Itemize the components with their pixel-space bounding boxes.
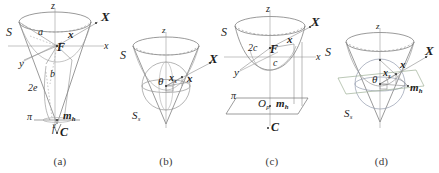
label-a-vector-x: x xyxy=(68,29,74,40)
label-c-param-c: c xyxy=(273,58,277,68)
panel-c: z x y S X x F 2c c π Op mh C (c) xyxy=(216,0,328,173)
label-a-y-axis: y xyxy=(19,58,24,69)
label-b-angle-theta: θ xyxy=(158,76,163,87)
label-c-vector-x: x xyxy=(287,34,293,45)
label-a-plane-pi: π xyxy=(27,112,32,122)
label-a-point-X: X xyxy=(101,10,110,23)
label-c-point-mh: mh xyxy=(276,98,289,111)
caption-d: (d) xyxy=(324,155,439,167)
label-c-x-axis: x xyxy=(316,52,320,62)
label-b-vector-x: x xyxy=(187,73,193,84)
label-a-z-axis: z xyxy=(51,1,55,11)
label-a-param-2e: 2e xyxy=(28,83,37,93)
label-d-sphere-Ss: Ss xyxy=(344,108,352,121)
label-a-point-mh: mh xyxy=(63,110,76,123)
label-c-cone-S: S xyxy=(221,26,227,38)
label-d-angle-theta: θ xyxy=(372,74,377,85)
label-d-point-mh: mh xyxy=(410,82,423,95)
label-b-cone-S: S xyxy=(120,49,126,61)
label-a-param-b: b xyxy=(50,69,55,79)
caption-b: (b) xyxy=(112,155,220,167)
label-b-sphere-Ss: Ss xyxy=(132,110,140,123)
caption-a: (a) xyxy=(0,155,120,167)
label-c-y-axis: y xyxy=(234,67,239,78)
label-c-apex-C: C xyxy=(271,121,279,133)
label-c-point-X: X xyxy=(311,15,320,28)
label-a-apex-C: C xyxy=(60,126,68,138)
label-a-x-axis: x xyxy=(104,41,108,51)
label-b-point-xs: xs xyxy=(169,73,177,84)
panel-a: z x y S X x F a b 2e π mh f C (a) xyxy=(0,0,120,173)
label-a-param-a: a xyxy=(38,27,43,37)
panel-b-drawing xyxy=(112,0,220,150)
label-a-param-f: f xyxy=(52,124,55,134)
label-a-cone-S: S xyxy=(6,26,12,38)
panel-d-drawing xyxy=(324,0,439,150)
panel-d: z S Ss θ xs x X mh (d) xyxy=(324,0,439,173)
label-c-point-Op: Op xyxy=(258,98,270,111)
label-a-focus-F: F xyxy=(57,41,65,53)
figure-panel-grid: z x y S X x F a b 2e π mh f C (a) xyxy=(0,0,439,173)
caption-c: (c) xyxy=(216,155,328,167)
label-c-focus-F: F xyxy=(270,43,278,55)
label-c-param-2c: 2c xyxy=(248,43,257,53)
label-d-point-X: X xyxy=(425,44,434,57)
label-d-point-xs: xs xyxy=(383,68,391,79)
label-c-plane-pi: π xyxy=(231,91,236,101)
label-d-z-axis: z xyxy=(376,22,380,31)
label-b-z-axis: z xyxy=(162,26,166,35)
label-d-vector-x: x xyxy=(400,59,406,70)
panel-b: z S Ss θ xs x X (b) xyxy=(112,0,220,173)
label-c-z-axis: z xyxy=(266,4,270,14)
label-d-cone-S: S xyxy=(325,46,331,58)
